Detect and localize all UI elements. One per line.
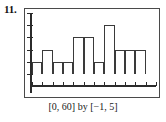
histogram-bar [42, 50, 52, 74]
histogram-bar [135, 50, 145, 74]
histogram-bar [94, 62, 104, 74]
calculator-screen [24, 8, 160, 98]
exercise-number: 11. [4, 4, 17, 15]
figure-container: 11. [0, 60] by [−1, 5] [0, 0, 166, 122]
histogram-bar [84, 37, 94, 74]
histogram-bar [73, 37, 83, 74]
x-tick [156, 82, 157, 86]
histogram-bar [104, 25, 114, 74]
histogram-bar [115, 50, 125, 74]
histogram-bar [63, 62, 73, 74]
histogram-bars [32, 13, 156, 86]
plot-area [25, 9, 159, 97]
viewing-window-caption: [0, 60] by [−1, 5] [0, 101, 166, 113]
histogram-bar [53, 62, 63, 74]
histogram-bar [32, 62, 42, 74]
histogram-bar [125, 50, 135, 74]
